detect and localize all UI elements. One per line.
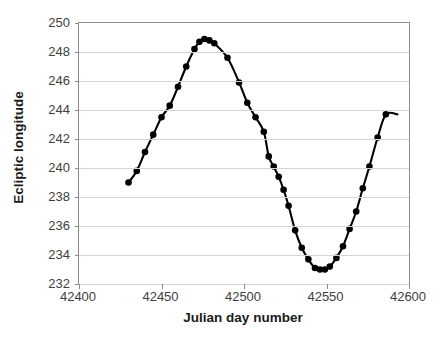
y-tick-label: 248 — [48, 44, 70, 59]
x-tick-label: 42550 — [307, 289, 343, 304]
data-point-marker — [261, 128, 268, 135]
data-point-marker — [353, 208, 360, 215]
data-point-marker — [292, 227, 299, 234]
y-tick-label: 234 — [48, 247, 70, 262]
y-axis-title-label: Ecliptic longitude — [11, 91, 26, 204]
y-tick-mark — [75, 139, 79, 140]
x-tick-label: 42450 — [142, 289, 178, 304]
y-tick-mark — [75, 168, 79, 169]
data-point-marker — [305, 256, 312, 263]
data-point-marker — [360, 185, 367, 192]
y-tick-label: 250 — [48, 15, 70, 30]
data-point-marker — [252, 114, 259, 121]
data-point-marker — [125, 179, 132, 186]
data-point-marker — [280, 186, 287, 193]
series-curve — [129, 39, 398, 270]
y-gridline — [79, 139, 409, 140]
y-gridline — [79, 52, 409, 53]
data-point-marker — [142, 149, 149, 156]
y-gridline — [79, 255, 409, 256]
y-gridline — [79, 110, 409, 111]
y-tick-mark — [75, 110, 79, 111]
data-point-marker — [285, 202, 292, 209]
data-point-marker — [183, 63, 190, 70]
y-gridline — [79, 226, 409, 227]
y-tick-label: 244 — [48, 102, 70, 117]
y-tick-mark — [75, 52, 79, 53]
y-tick-label: 236 — [48, 218, 70, 233]
y-gridline — [79, 197, 409, 198]
data-point-marker — [224, 55, 231, 62]
data-point-marker — [166, 102, 173, 109]
y-tick-label: 246 — [48, 73, 70, 88]
y-tick-label: 242 — [48, 131, 70, 146]
data-point-marker — [158, 114, 165, 121]
y-tick-mark — [75, 255, 79, 256]
plot-area — [78, 22, 410, 284]
x-tick-label: 42400 — [60, 289, 96, 304]
data-point-marker — [298, 244, 305, 251]
y-tick-label: 240 — [48, 160, 70, 175]
y-tick-mark — [75, 197, 79, 198]
data-point-marker — [383, 111, 390, 118]
series-line-chart — [79, 23, 409, 284]
data-point-marker — [150, 131, 157, 138]
y-tick-label: 238 — [48, 189, 70, 204]
data-point-marker — [244, 99, 251, 106]
y-tick-mark — [75, 226, 79, 227]
y-gridline — [79, 81, 409, 82]
y-axis-tick-labels: 232234236238240242244246248250 — [30, 22, 76, 283]
x-axis-title: Julian day number — [78, 310, 408, 325]
x-tick-label: 42500 — [225, 289, 261, 304]
data-point-marker — [265, 153, 272, 160]
x-tick-label: 42600 — [390, 289, 426, 304]
y-gridline — [79, 168, 409, 169]
chart-container: Ecliptic longitude 232234236238240242244… — [0, 0, 446, 339]
y-tick-mark — [75, 81, 79, 82]
x-axis-tick-labels: 4240042450425004255042600 — [78, 289, 408, 309]
data-point-marker — [175, 84, 182, 91]
y-tick-mark — [75, 23, 79, 24]
data-point-marker — [340, 243, 347, 250]
data-point-marker — [211, 40, 218, 47]
data-point-marker — [275, 173, 282, 180]
series-markers — [125, 36, 389, 273]
data-point-marker — [327, 263, 334, 270]
